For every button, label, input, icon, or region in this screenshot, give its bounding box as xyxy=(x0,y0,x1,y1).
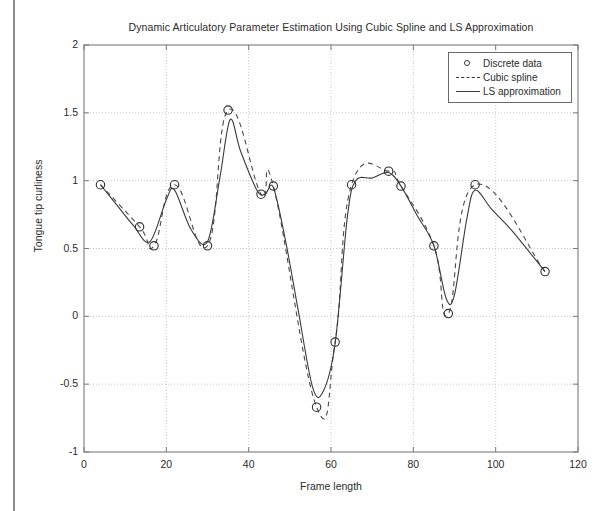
data-point-marker xyxy=(312,403,320,411)
legend-label-cubic-spline: Cubic spline xyxy=(483,72,537,83)
legend-item-discrete-data: Discrete data xyxy=(453,56,567,70)
dashed-line-icon xyxy=(453,70,483,84)
legend-label-discrete-data: Discrete data xyxy=(483,58,542,69)
chart-legend: Discrete data Cubic spline LS approximat… xyxy=(448,52,572,103)
legend-item-cubic-spline: Cubic spline xyxy=(453,70,567,84)
legend-item-ls-approximation: LS approximation xyxy=(453,84,567,98)
legend-label-ls-approximation: LS approximation xyxy=(483,86,561,97)
data-point-marker xyxy=(347,181,355,189)
data-point-marker xyxy=(96,181,104,189)
solid-line-icon xyxy=(453,84,483,98)
data-point-marker xyxy=(444,309,452,317)
circle-marker-icon xyxy=(453,56,483,70)
chart-figure: Dynamic Articulatory Parameter Estimatio… xyxy=(0,0,614,511)
data-point-marker xyxy=(541,267,549,275)
series-cubic-spline xyxy=(100,109,545,419)
data-point-marker xyxy=(471,181,479,189)
series-ls-approximation xyxy=(100,119,545,398)
